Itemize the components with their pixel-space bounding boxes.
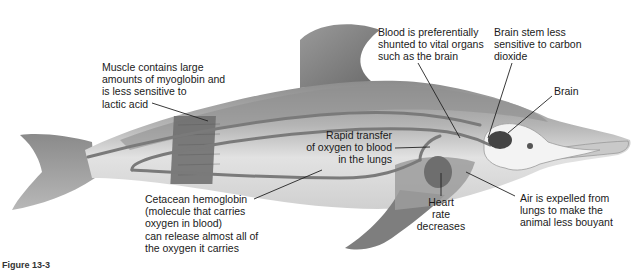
figure-caption: Figure 13-3: [2, 260, 50, 270]
label-oxygen-transfer: Rapid transfer of oxygen to blood in the…: [292, 129, 392, 166]
label-heart-rate: Heart rate decreases: [414, 196, 468, 233]
dorsal-fin: [300, 24, 380, 88]
brain: [488, 131, 512, 149]
label-brain-stem: Brain stem less sensitive to carbon diox…: [494, 26, 582, 63]
label-hemoglobin: Cetacean hemoglobin (molecule that carri…: [145, 193, 258, 254]
label-muscle: Muscle contains large amounts of myoglob…: [102, 61, 225, 110]
tail-fluke: [12, 134, 95, 210]
label-brain: Brain: [554, 85, 579, 97]
label-air-expelled: Air is expelled from lungs to make the a…: [520, 192, 613, 229]
label-blood-shunt: Blood is preferentially shunted to vital…: [378, 26, 484, 63]
eye: [527, 143, 533, 149]
heart: [424, 156, 452, 188]
dolphin-diagram: Muscle contains large amounts of myoglob…: [0, 0, 640, 270]
